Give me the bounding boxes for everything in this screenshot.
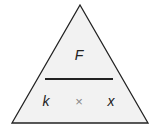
bottom-right-variable-x: x — [108, 94, 115, 108]
multiply-operator: × — [75, 95, 83, 108]
bottom-left-variable-k: k — [43, 94, 50, 108]
triangle-diagram — [0, 0, 155, 130]
top-variable-f: F — [75, 48, 84, 62]
